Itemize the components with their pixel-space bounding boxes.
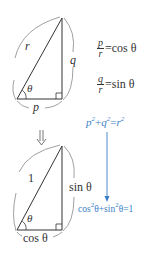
relation-cos: p r =cos θ <box>97 38 137 59</box>
label-one: 1 <box>28 172 34 184</box>
label-r: r <box>25 40 30 52</box>
trig-identity: cos2θ+sin2θ=1 <box>78 205 133 215</box>
label-theta-top: θ <box>27 83 32 94</box>
pythagorean-equation: p2+q2=r2 <box>86 117 124 128</box>
double-down-arrow-icon <box>37 130 46 145</box>
relation-sin: q r =sin θ <box>97 74 135 95</box>
label-sin-theta: sin θ <box>69 181 92 193</box>
label-p: p <box>33 101 39 113</box>
top-triangle <box>13 17 74 108</box>
fraction-p-over-r: p r <box>97 38 104 59</box>
fraction-q-over-r: q r <box>97 74 104 95</box>
label-theta-bottom: θ <box>27 213 32 224</box>
bottom-triangle <box>14 145 75 237</box>
label-q: q <box>70 54 76 66</box>
derivation-arrow-icon <box>105 132 110 202</box>
label-cos-theta: cos θ <box>23 232 48 244</box>
